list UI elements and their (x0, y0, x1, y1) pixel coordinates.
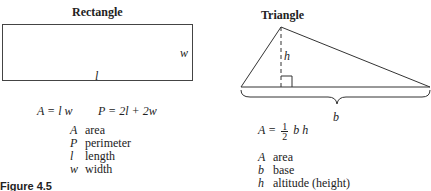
rectangle-title: Rectangle (72, 5, 123, 20)
rectangle-perimeter-formula: P = 2l + 2w (98, 104, 157, 119)
triangle-base-label: b (333, 110, 339, 125)
figure-label: Figure 4.5 (0, 180, 52, 191)
rectangle-legend: A area P perimeter l length w width (70, 124, 131, 176)
triangle-height-label: h (284, 49, 290, 64)
rectangle-width-label: w (180, 46, 188, 61)
triangle-diagram (220, 0, 431, 110)
rectangle-length-label: l (95, 69, 98, 84)
rectangle-area-formula: A = l w (37, 104, 73, 119)
triangle-area-formula: A = 12 b h (258, 122, 308, 141)
triangle-legend: A area b base h altitude (height) (258, 151, 350, 190)
legend-item: w width (70, 163, 131, 176)
fraction-one-half: 12 (281, 122, 288, 141)
legend-item: h altitude (height) (258, 177, 350, 190)
